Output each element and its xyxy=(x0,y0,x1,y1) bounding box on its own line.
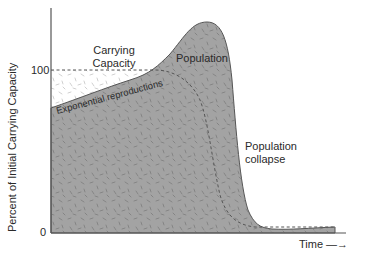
y-axis-label: Percent of Initial Carrying Capacity xyxy=(6,63,18,232)
population-label: Population xyxy=(176,52,228,65)
population-collapse-label: Population collapse xyxy=(245,140,297,166)
carrying-capacity-label: Carrying Capacity xyxy=(84,44,144,70)
population-overshoot-diagram: Percent of Initial Carrying Capacity 100… xyxy=(0,0,366,256)
chart-canvas xyxy=(0,0,366,256)
y-tick-100: 100 xyxy=(31,64,49,77)
y-tick-0: 0 xyxy=(40,226,46,239)
x-axis-label: Time —→ xyxy=(299,238,348,251)
